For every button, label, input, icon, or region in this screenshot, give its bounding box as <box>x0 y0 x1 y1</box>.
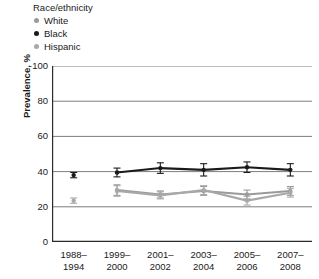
legend-item-hispanic: Hispanic <box>34 40 173 53</box>
legend-title: Race/ethnicity <box>33 2 173 14</box>
chart-legend: Race/ethnicity White Black Hispanic <box>33 2 173 53</box>
x-tick-label-4: 2005–2006 <box>234 249 260 272</box>
y-tick-label-80: 80 <box>37 96 48 106</box>
series-hispanic <box>70 186 294 205</box>
plot-area: Prevalence, % 0204060801001988–19941999–… <box>52 66 312 242</box>
prevalence-by-race-line-chart: Race/ethnicity White Black Hispanic Prev… <box>0 0 319 279</box>
y-tick-label-40: 40 <box>37 167 48 177</box>
data-point-black-1 <box>115 170 119 174</box>
legend-item-white: White <box>34 14 173 27</box>
x-tick-label-0: 1988–1994 <box>60 249 86 272</box>
data-point-hispanic-0 <box>71 198 75 202</box>
x-tick-label-5: 2007–2008 <box>277 249 303 272</box>
legend-marker-black-circle-icon <box>34 31 39 36</box>
data-point-black-3 <box>201 168 205 172</box>
y-tick-label-0: 0 <box>43 237 48 247</box>
data-point-hispanic-1 <box>115 189 119 193</box>
legend-marker-white-circle-icon <box>34 18 39 23</box>
legend-label-white: White <box>44 14 68 27</box>
y-axis-title: Prevalence, % <box>21 0 32 118</box>
data-point-black-4 <box>245 165 249 169</box>
legend-item-black: Black <box>34 27 173 40</box>
legend-label-black: Black <box>44 27 67 40</box>
legend-label-hispanic: Hispanic <box>44 40 80 53</box>
x-tick-label-2: 2001–2002 <box>147 249 173 272</box>
data-point-hispanic-5 <box>288 191 292 195</box>
x-tick-label-1: 1999–2000 <box>104 249 130 272</box>
data-point-black-5 <box>288 168 292 172</box>
data-point-hispanic-4 <box>245 198 249 202</box>
x-tick-label-3: 2003–2004 <box>190 249 216 272</box>
series-black <box>70 162 294 178</box>
data-point-black-2 <box>158 166 162 170</box>
chart-canvas <box>52 66 312 242</box>
data-point-hispanic-2 <box>158 193 162 197</box>
y-tick-label-100: 100 <box>32 61 48 71</box>
y-tick-label-60: 60 <box>37 132 48 142</box>
legend-marker-hispanic-circle-icon <box>34 44 39 49</box>
data-point-black-0 <box>71 173 75 177</box>
y-tick-label-20: 20 <box>37 202 48 212</box>
data-point-hispanic-3 <box>201 188 205 192</box>
